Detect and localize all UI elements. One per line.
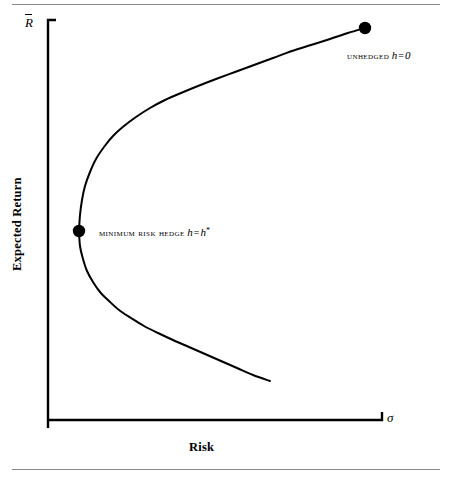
y-axis-symbol: R xyxy=(25,14,33,29)
chart-canvas xyxy=(0,0,449,479)
x-axis-symbol: σ xyxy=(387,411,393,424)
y-axis xyxy=(48,20,56,428)
frontier-curve-lower-branch xyxy=(79,231,270,381)
y-axis-symbol-letter: R xyxy=(25,14,33,29)
x-axis-title: Risk xyxy=(189,440,214,455)
minrisk-label-caps: MINIMUM RISK HEDGE xyxy=(99,227,185,238)
unhedged-point-label: UNHEDGED h=0 xyxy=(347,49,410,61)
minrisk-label-star: * xyxy=(206,226,211,235)
x-axis xyxy=(48,412,382,420)
minimum-risk-hedge-point-marker xyxy=(73,225,85,237)
y-axis-title: Expected Return xyxy=(10,177,25,271)
frontier-curve-upper-branch xyxy=(79,28,365,231)
minimum-risk-hedge-point-label: MINIMUM RISK HEDGE h=h* xyxy=(99,226,210,238)
y-axis-title-text: Expected Return xyxy=(10,177,25,271)
figure-container: R σ Expected Return Risk UNHEDGED h=0 MI… xyxy=(0,0,449,479)
unhedged-point-marker xyxy=(359,22,371,34)
unhedged-label-caps: UNHEDGED xyxy=(347,50,389,61)
unhedged-label-equals: = xyxy=(397,50,405,61)
minrisk-label-variable: h xyxy=(187,226,193,238)
unhedged-label-value: 0 xyxy=(405,49,411,61)
